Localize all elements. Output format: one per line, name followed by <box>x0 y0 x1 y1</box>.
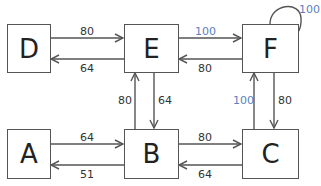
label-b-to-e: 80 <box>118 95 132 106</box>
node-a: A <box>7 129 51 179</box>
label-f-to-c: 80 <box>278 95 292 106</box>
label-e-to-f: 100 <box>195 26 216 37</box>
label-c-to-f: 100 <box>233 95 254 106</box>
label-e-to-b: 64 <box>158 95 172 106</box>
label-b-to-a: 51 <box>80 169 94 180</box>
node-e: E <box>124 24 179 73</box>
node-d: D <box>7 24 51 73</box>
label-a-to-b: 64 <box>80 132 94 143</box>
label-c-to-b: 64 <box>198 169 212 180</box>
label-f-self-loop: 100 <box>299 4 320 15</box>
node-f: F <box>242 24 299 73</box>
node-c: C <box>242 129 299 179</box>
node-b: B <box>124 129 179 179</box>
label-b-to-c: 80 <box>198 132 212 143</box>
label-d-to-e: 80 <box>80 26 94 37</box>
label-e-to-d: 64 <box>80 63 94 74</box>
label-f-to-e: 80 <box>198 63 212 74</box>
